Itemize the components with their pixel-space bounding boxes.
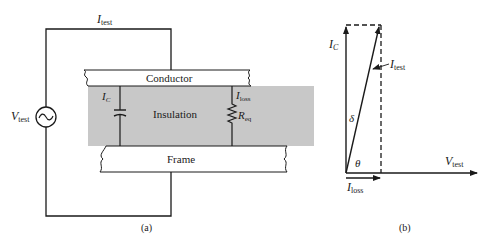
vtest-axis-label: Vtest — [445, 154, 464, 169]
panel-a-circuit — [36, 29, 314, 216]
itest-phasor-label: Itest — [389, 57, 406, 72]
ic-phasor-label: IC — [328, 37, 339, 52]
delta-angle-label: δ — [349, 112, 355, 124]
panel-b-caption: (b) — [399, 222, 411, 234]
insulation-test-figure: Itest Vtest Conductor Insulation Frame I… — [0, 0, 490, 238]
vtest-source-label: Vtest — [11, 109, 30, 124]
insulation-label: Insulation — [153, 108, 197, 120]
panel-a-caption: (a) — [141, 222, 152, 234]
theta-angle-label: θ — [355, 157, 361, 169]
conductor-label: Conductor — [146, 72, 193, 84]
panel-b-phasor — [346, 25, 477, 178]
frame-label: Frame — [167, 153, 195, 165]
itest-vector — [346, 27, 379, 173]
iloss-phasor-label: Iloss — [346, 180, 363, 195]
itest-wire-label: Itest — [96, 12, 113, 27]
insulation-region — [88, 86, 314, 146]
